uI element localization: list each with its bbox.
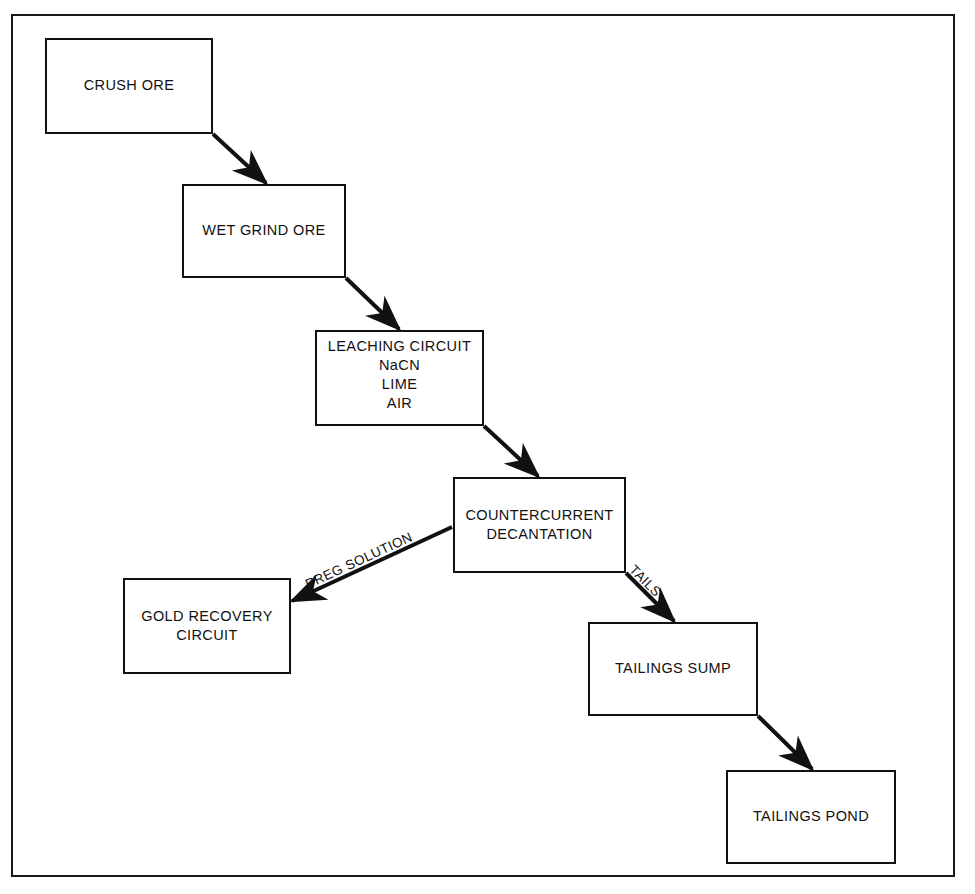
arrow-grind-to-leach [346,278,399,329]
diagram-canvas: CRUSH ORE WET GRIND ORE LEACHING CIRCUIT… [0,0,975,894]
node-gold-recovery-circuit[interactable]: GOLD RECOVERY CIRCUIT [123,578,291,674]
node-leaching-reagent-air: AIR [387,394,412,413]
node-crush-ore-label: CRUSH ORE [84,76,175,95]
node-leaching-reagent-nacn: NaCN [379,356,420,375]
node-wet-grind-ore-label: WET GRIND ORE [202,221,325,240]
arrow-ccd-to-gold-recovery [292,527,452,601]
node-leaching-circuit-label: LEACHING CIRCUIT [328,337,471,356]
node-tailings-pond[interactable]: TAILINGS POND [726,770,896,864]
node-tailings-sump[interactable]: TAILINGS SUMP [588,622,758,716]
node-gold-recovery-circuit-label-line1: GOLD RECOVERY [141,607,272,626]
node-countercurrent-decantation-label-line1: COUNTERCURRENT [465,506,613,525]
node-countercurrent-decantation-label-line2: DECANTATION [486,525,592,544]
arrow-leach-to-ccd [484,426,538,476]
arrow-sump-to-pond [758,716,812,769]
node-leaching-reagent-lime: LIME [382,375,417,394]
node-countercurrent-decantation[interactable]: COUNTERCURRENT DECANTATION [453,477,626,573]
node-leaching-circuit[interactable]: LEACHING CIRCUIT NaCN LIME AIR [315,330,484,426]
node-tailings-sump-label: TAILINGS SUMP [615,659,731,678]
flow-arrows [0,0,975,894]
node-gold-recovery-circuit-label-line2: CIRCUIT [176,626,238,645]
node-wet-grind-ore[interactable]: WET GRIND ORE [182,184,346,278]
node-tailings-pond-label: TAILINGS POND [753,807,869,826]
arrow-crush-to-grind [213,134,266,183]
node-crush-ore[interactable]: CRUSH ORE [45,38,213,134]
